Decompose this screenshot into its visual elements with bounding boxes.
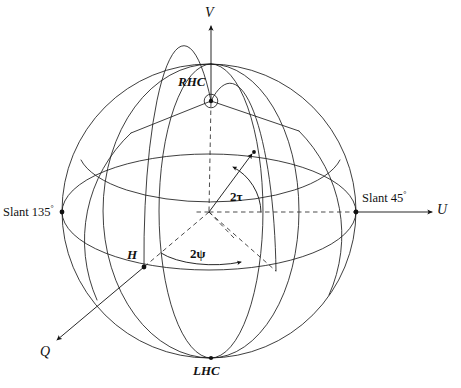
slant135-point-dot — [60, 210, 65, 215]
h-point-dot — [142, 265, 147, 270]
slant45-degree-symbol: ° — [403, 190, 406, 199]
cutaway-rim-right — [211, 83, 276, 271]
q-axis-arrow — [57, 267, 144, 340]
slant135-label-text: Slant 135 — [3, 205, 51, 219]
rhc-pole-dot — [209, 99, 213, 103]
two-psi-label: 2ψ — [190, 247, 205, 260]
slant45-label-text: Slant 45 — [362, 191, 403, 205]
slant135-label: Slant 135° — [3, 205, 54, 219]
slant45-point-dot — [354, 210, 359, 215]
meridian-uv-left-arc — [159, 64, 211, 358]
meridian-uv-right-arc — [211, 64, 263, 358]
back-circle-left-arc — [84, 133, 131, 300]
rhc-label: RHC — [178, 75, 205, 88]
back-circle-right-arc — [299, 131, 342, 295]
lhc-label: LHC — [193, 364, 220, 377]
state-drop-line — [209, 212, 234, 238]
equator-front-arc — [62, 212, 356, 270]
meridian-state-arc — [211, 64, 299, 358]
v-axis-inner-dashed — [209, 101, 211, 211]
latitude-ring-back — [81, 160, 340, 202]
u-axis-label: U — [437, 203, 447, 217]
state-point-dot — [252, 150, 256, 154]
h-label: H — [127, 248, 137, 261]
meridian-h-arc — [103, 64, 211, 358]
v-axis-label: V — [205, 6, 214, 20]
lhc-pole-dot — [209, 356, 213, 360]
slant45-label: Slant 45° — [362, 191, 407, 205]
two-tau-label: 2τ — [230, 190, 243, 203]
poincare-sphere-figure: V U Q RHC LHC H Slant 45° Slant 135° 2τ … — [0, 0, 461, 388]
slant135-degree-symbol: ° — [51, 204, 54, 213]
q-axis-label: Q — [40, 345, 50, 359]
equatorial-projection-ray — [209, 212, 276, 271]
